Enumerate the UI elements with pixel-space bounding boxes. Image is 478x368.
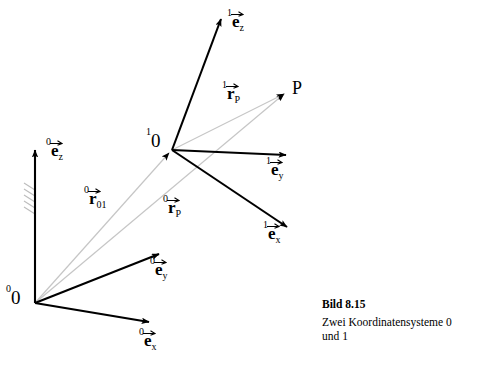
figure-container: 00 10 P 0ez 0ey 0ex 1ez 1ey 1ex (0, 0, 478, 368)
axis-label-e1y: 1ey (266, 161, 284, 178)
vector-arrow-icon (50, 139, 63, 146)
frame0-axes (35, 150, 159, 322)
figure-caption: Bild 8.15 Zwei Koordinatensysteme 0 und … (322, 297, 472, 343)
point-label-p: P (292, 79, 302, 97)
origin0-base: 0 (11, 287, 21, 308)
axis-label-e0z: 0ez (46, 142, 63, 159)
vector-arrow-icon (154, 258, 167, 265)
r01-vector-label: 0r01 (84, 190, 107, 207)
point-p-text: P (292, 78, 302, 98)
e0y-base: e (155, 261, 163, 278)
vector-arrow-icon (226, 82, 239, 89)
vector-arrow-icon (267, 222, 280, 229)
e0z-sub: z (59, 151, 63, 162)
r1p-vector-label: 1rP (222, 85, 240, 102)
vector-label-r1p: 1rP (222, 85, 240, 102)
axis-e1z (172, 19, 221, 150)
origin-label-frame0: 00 (6, 288, 21, 307)
vector-label-r01: 0r01 (84, 190, 107, 207)
r01-base: r (89, 190, 97, 207)
origin1-base: 0 (151, 130, 161, 151)
ground-hatching-icon (24, 183, 35, 214)
frame1-axes (172, 19, 287, 227)
r0p-base: r (168, 199, 176, 216)
axis-label-e0y: 0ey (150, 261, 168, 278)
e0z-vector-label: 0ez (46, 142, 63, 159)
caption-title: Bild 8.15 (322, 297, 472, 312)
vector-arrow-icon (270, 158, 283, 165)
e0y-vector-label: 0ey (150, 261, 168, 278)
e1z-vector-label: 1ez (227, 13, 244, 30)
e0z-base: e (51, 142, 59, 159)
e1y-sub: y (279, 170, 284, 181)
axis-label-e1z: 1ez (227, 13, 244, 30)
vector-arrow-icon (167, 196, 180, 203)
origin-label-frame1: 10 (146, 131, 161, 150)
e1x-base: e (268, 225, 276, 242)
axis-e0x (35, 303, 149, 322)
r1p-sub: P (235, 94, 241, 105)
e0x-base: e (144, 332, 152, 349)
vector-label-r0p: 0rP (163, 199, 181, 216)
origin0-presup: 0 (6, 283, 11, 294)
r01-sub: 01 (97, 199, 107, 210)
r1p-base: r (227, 85, 235, 102)
e1y-base: e (271, 161, 279, 178)
e1z-sub: z (240, 22, 244, 33)
e0y-sub: y (163, 270, 168, 281)
axis-label-e1x: 1ex (263, 225, 281, 242)
e1x-sub: x (276, 234, 281, 245)
caption-line2: und 1 (322, 329, 472, 343)
e0x-sub: x (152, 341, 157, 352)
e1y-vector-label: 1ey (266, 161, 284, 178)
vector-arrow-icon (231, 10, 244, 17)
e1z-base: e (232, 13, 240, 30)
axis-label-e0x: 0ex (139, 332, 157, 349)
caption-line1: Zwei Koordinatensysteme 0 (322, 315, 472, 329)
e0x-vector-label: 0ex (139, 332, 157, 349)
vector-arrow-icon (143, 329, 156, 336)
origin1-presup: 1 (146, 126, 151, 137)
e1x-vector-label: 1ex (263, 225, 281, 242)
r0p-sub: P (176, 208, 182, 219)
vector-arrow-icon (88, 187, 101, 194)
ray-r01 (35, 153, 169, 303)
axis-e0y (35, 254, 159, 303)
r0p-vector-label: 0rP (163, 199, 181, 216)
